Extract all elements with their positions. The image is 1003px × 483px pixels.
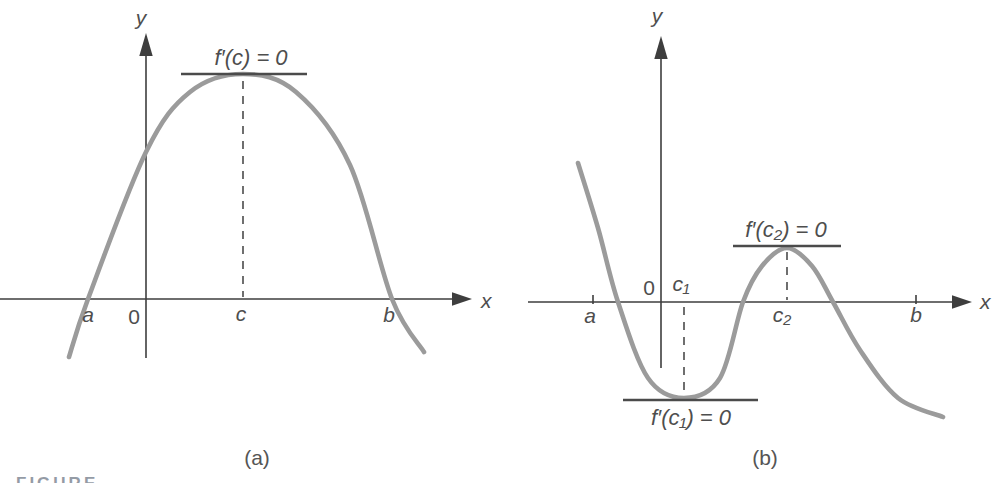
tick-label-c1: c₁ [672,272,690,295]
x-axis-label: x [979,290,992,313]
panel-a: x y f′(c) = 0 a 0 c b (a) [0,6,493,469]
origin-label: 0 [128,305,140,328]
tick-label-b: b [910,303,922,326]
annotation-fprime-c: f′(c) = 0 [214,45,288,70]
tick-label-a: a [584,304,596,327]
x-axis-arrow-icon [452,292,472,305]
origin-label: 0 [643,276,655,299]
tick-label-c2: c₂ [773,303,792,326]
tick-label-c: c [236,302,247,325]
y-axis-arrow-icon [654,36,667,59]
panel-caption-a: (a) [244,446,270,469]
y-axis-label: y [134,6,148,29]
figure: x y f′(c) = 0 a 0 c b (a) x y f′(c₂) = 0 [0,0,1003,483]
y-axis-arrow-icon [139,33,152,56]
figure-canvas: x y f′(c) = 0 a 0 c b (a) x y f′(c₂) = 0 [0,0,1003,483]
tick-label-a: a [82,303,94,326]
annotation-fprime-c2: f′(c₂) = 0 [745,217,827,242]
tick-label-b: b [383,303,395,326]
x-axis-label: x [480,289,493,312]
panel-caption-b: (b) [752,446,778,469]
x-axis-arrow-icon [952,295,972,308]
annotation-fprime-c1: f′(c₁) = 0 [651,405,732,430]
curve-a [69,74,424,357]
figure-label-partial: FIGURE [16,474,98,483]
y-axis-label: y [650,4,664,27]
panel-b: x y f′(c₂) = 0 f′(c₁) = 0 a 0 c₁ c₂ b (b… [528,4,992,469]
curve-b [578,163,943,417]
